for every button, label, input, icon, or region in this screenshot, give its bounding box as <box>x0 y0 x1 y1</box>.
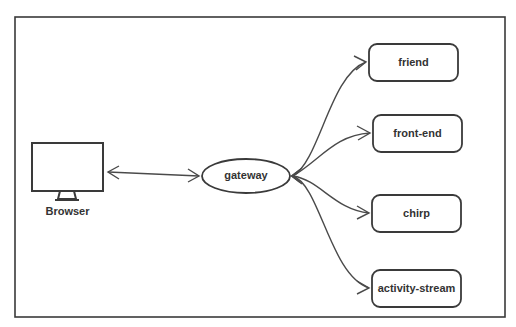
chirp-label: chirp <box>372 207 461 219</box>
edge-browser-gateway <box>108 172 199 176</box>
monitor-icon <box>32 143 103 200</box>
activity-stream-label: activity-stream <box>372 282 461 294</box>
front-end-label: front-end <box>373 127 462 139</box>
edge-gateway-friend <box>293 62 366 176</box>
friend-label: friend <box>369 56 458 68</box>
diagram-canvas <box>0 0 516 327</box>
edge-gateway-activity-stream <box>293 176 369 288</box>
browser-label: Browser <box>32 205 103 217</box>
gateway-label: gateway <box>202 169 290 181</box>
edge-gateway-chirp <box>293 176 369 213</box>
